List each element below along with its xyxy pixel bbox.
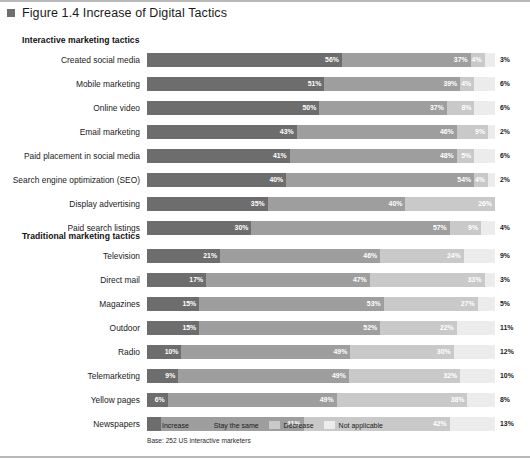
bar-segment: 41% (147, 149, 290, 163)
bar-segment (460, 369, 495, 383)
segment-value-label: 6% (155, 397, 168, 404)
stacked-bar: 51%39%4% (147, 77, 495, 91)
bar-segment: 6% (147, 393, 168, 407)
stacked-bar: 10%49%30% (147, 345, 495, 359)
bar-segment (474, 149, 495, 163)
legend-label: Not applicable (339, 422, 383, 429)
bar-segment: 33% (370, 273, 485, 287)
segment-value-label: 35% (251, 201, 268, 208)
bar-segment: 48% (290, 149, 457, 163)
segment-value-label-outside: 4% (495, 225, 510, 232)
bar-segment (481, 221, 495, 235)
bar-segment: 37% (342, 53, 471, 67)
segment-value-label: 4% (472, 57, 485, 64)
chart-row: Television21%46%24%9% (0, 244, 530, 268)
segment-value-label: 40% (389, 201, 406, 208)
segment-value-label-outside: 2% (495, 129, 510, 136)
row-label: Telemarketing (0, 371, 147, 381)
segment-value-label: 42% (433, 421, 450, 428)
bar-segment: 38% (337, 393, 468, 407)
bottom-divider (0, 456, 530, 458)
segment-value-label: 49% (320, 397, 337, 404)
chart-row: Created social media56%37%4%3% (0, 48, 530, 72)
chart-row: Email marketing43%46%9%2% (0, 120, 530, 144)
row-label: Display advertising (0, 199, 147, 209)
bar-segment (457, 321, 495, 335)
bar-segment: 4% (460, 77, 474, 91)
segment-value-label: 9% (475, 129, 488, 136)
bar-segment (488, 125, 495, 139)
legend-swatch-icon (324, 421, 335, 429)
legend-swatch-icon (199, 421, 210, 429)
segment-value-label: 54% (457, 177, 474, 184)
legend-swatch-icon (147, 421, 158, 429)
row-label: Created social media (0, 55, 147, 65)
legend-item: Decrease (269, 421, 314, 429)
bar-segment: 39% (324, 77, 460, 91)
bar-segment: 24% (380, 249, 464, 263)
segment-value-label-outside: 6% (495, 153, 510, 160)
segment-value-label-outside: 11% (495, 325, 513, 332)
segment-value-label-outside: 2% (495, 177, 510, 184)
bar-segment: 37% (319, 101, 446, 115)
bar-segment: 52% (199, 321, 380, 335)
segment-value-label-outside: 3% (495, 277, 510, 284)
segment-value-label: 43% (280, 129, 297, 136)
chart-row: Yellow pages6%49%38%8% (0, 388, 530, 412)
legend-label: Increase (162, 422, 189, 429)
segment-value-label: 46% (440, 129, 457, 136)
bar-segment (454, 345, 495, 359)
segment-value-label-outside: 3% (495, 57, 510, 64)
segment-value-label: 40% (269, 177, 286, 184)
bar-segment: 27% (384, 297, 478, 311)
bar-segment (488, 173, 495, 187)
stacked-bar: 6%49%38% (147, 393, 495, 407)
bar-segment: 40% (147, 173, 286, 187)
segment-value-label-outside: 6% (495, 105, 510, 112)
section-heading-interactive: Interactive marketing tactics (22, 35, 140, 45)
row-label: Paid placement in social media (0, 151, 147, 161)
bar-segment (478, 297, 495, 311)
bar-segment: 4% (474, 173, 488, 187)
page-title: Figure 1.4 Increase of Digital Tactics (22, 6, 227, 20)
top-divider (0, 0, 530, 2)
bar-segment: 8% (447, 101, 475, 115)
segment-value-label: 32% (443, 373, 460, 380)
segment-value-label: 49% (332, 373, 349, 380)
bar-segment: 50% (147, 101, 319, 115)
bar-segment (467, 393, 495, 407)
bar-segment: 15% (147, 321, 199, 335)
segment-value-label: 24% (447, 253, 464, 260)
segment-value-label: 37% (454, 57, 471, 64)
segment-value-label: 52% (363, 325, 380, 332)
stacked-bar: 50%37%8% (147, 101, 495, 115)
bar-segment: 10% (147, 345, 181, 359)
bar-segment (485, 273, 495, 287)
segment-value-label-outside: 9% (495, 253, 510, 260)
bar-segment: 32% (349, 369, 460, 383)
segment-value-label: 53% (367, 301, 384, 308)
bar-segment: 54% (286, 173, 474, 187)
bar-segment (464, 249, 495, 263)
chart-row: Outdoor15%52%22%11% (0, 316, 530, 340)
segment-value-label: 27% (461, 301, 478, 308)
chart-rows-traditional: Television21%46%24%9%Direct mail17%47%33… (0, 244, 530, 436)
legend-item: Stay the same (199, 421, 259, 429)
segment-value-label: 41% (273, 153, 290, 160)
bar-segment: 49% (168, 393, 337, 407)
segment-value-label: 9% (468, 225, 481, 232)
segment-value-label-outside: 6% (495, 81, 510, 88)
bar-segment: 17% (147, 273, 206, 287)
segment-value-label: 9% (165, 373, 178, 380)
stacked-bar: 43%46%9% (147, 125, 495, 139)
stacked-bar: 35%40%26% (147, 197, 495, 211)
bar-segment: 57% (251, 221, 449, 235)
segment-value-label: 51% (308, 81, 325, 88)
bar-segment: 40% (268, 197, 406, 211)
stacked-bar: 30%57%9% (147, 221, 495, 235)
stacked-bar: 15%52%22% (147, 321, 495, 335)
row-label: Email marketing (0, 127, 147, 137)
legend-item: Not applicable (324, 421, 383, 429)
segment-value-label: 50% (303, 105, 320, 112)
bar-segment: 53% (199, 297, 383, 311)
